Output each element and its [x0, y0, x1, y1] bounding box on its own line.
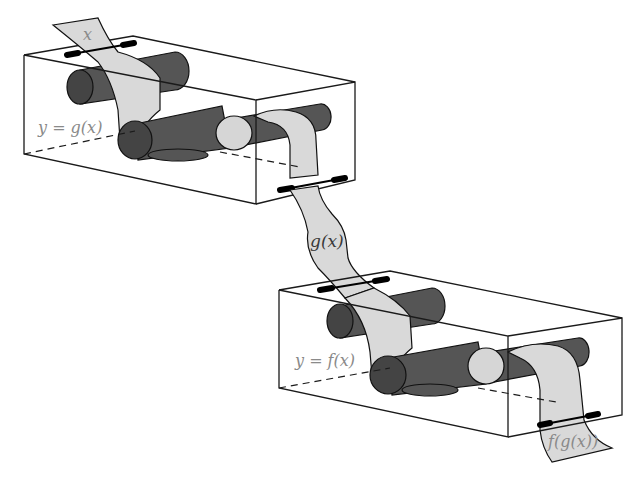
machine-g-label: y = g(x)	[37, 118, 102, 137]
tape-label-output: f(g(x))	[547, 432, 598, 451]
composition-diagram: x y = g(x) g(x) y = f(x)	[0, 0, 638, 478]
machine-f-output-slot	[540, 423, 550, 425]
machine-g-input-slot	[67, 53, 78, 55]
machine-f: y = f(x) f(g(x))	[279, 271, 622, 462]
machine-f-input-slot	[320, 288, 332, 290]
tape-label-middle: g(x)	[310, 231, 344, 251]
machine-g-hidden-edge-right	[220, 152, 300, 167]
machine-g: x y = g(x)	[24, 18, 355, 204]
machine-f-label: y = f(x)	[294, 351, 355, 370]
machine-g-tape-out	[254, 110, 318, 178]
tape-label-input: x	[83, 25, 92, 44]
